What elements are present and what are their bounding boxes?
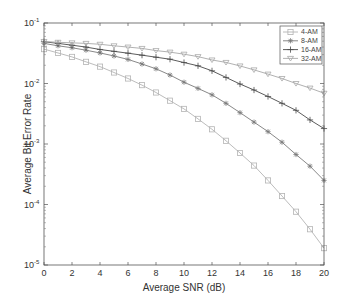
x-tick-label: 8 — [153, 268, 158, 278]
x-tick-label: 2 — [69, 268, 74, 278]
star-marker — [251, 120, 256, 125]
star-marker — [237, 110, 242, 115]
y-tick-exponent: -5 — [34, 259, 40, 265]
x-tick-label: 16 — [263, 268, 273, 278]
y-tick-label: 10 — [24, 200, 34, 210]
y-tick-exponent: -3 — [34, 138, 40, 144]
star-marker — [209, 92, 214, 97]
star-marker — [167, 72, 172, 77]
y-axis-label: Average Bit Error Rate — [22, 93, 33, 194]
star-marker — [125, 57, 130, 62]
y-tick-exponent: -1 — [34, 17, 40, 23]
y-tick-label: 10 — [24, 18, 34, 28]
y-tick-exponent: -4 — [34, 199, 40, 205]
legend-label: 4-AM — [301, 28, 318, 35]
star-marker — [181, 80, 186, 85]
x-tick-label: 10 — [179, 268, 189, 278]
star-marker — [279, 140, 284, 145]
x-tick-label: 20 — [319, 268, 329, 278]
legend-label: 16-AM — [301, 46, 322, 53]
star-marker — [288, 38, 293, 43]
legend-label: 8-AM — [301, 37, 318, 44]
y-tick-exponent: -2 — [34, 78, 40, 84]
legend: 4-AM8-AM16-AM32-AM — [280, 26, 322, 64]
x-tick-label: 14 — [235, 268, 245, 278]
star-marker — [265, 129, 270, 134]
legend-item-4-am: 4-AM — [283, 28, 318, 35]
x-tick-label: 18 — [291, 268, 301, 278]
x-tick-label: 4 — [97, 268, 102, 278]
x-axis-label: Average SNR (dB) — [143, 282, 226, 293]
star-marker — [153, 66, 158, 71]
y-tick-label: 10 — [24, 260, 34, 270]
y-tick-label: 10 — [24, 79, 34, 89]
star-marker — [223, 101, 228, 106]
star-marker — [139, 61, 144, 66]
x-tick-label: 6 — [125, 268, 130, 278]
ber-chart: 0246810121416182010-110-210-310-410-5 Av… — [0, 0, 345, 303]
star-marker — [293, 152, 298, 157]
x-tick-label: 0 — [41, 268, 46, 278]
x-tick-label: 12 — [207, 268, 217, 278]
legend-label: 32-AM — [301, 55, 322, 62]
star-marker — [307, 164, 312, 169]
star-marker — [195, 86, 200, 91]
